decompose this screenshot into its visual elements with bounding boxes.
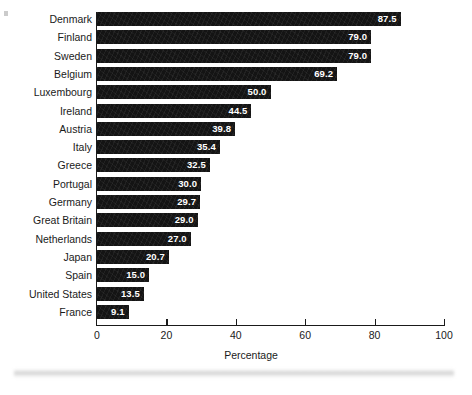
x-axis-tick-label: 80: [369, 329, 381, 341]
category-label: Greece: [0, 158, 92, 172]
bar-value-label: 27.0: [168, 232, 187, 246]
bar-value-label: 50.0: [248, 85, 267, 99]
x-axis-tick: [305, 319, 306, 325]
bar[interactable]: 35.4: [97, 140, 220, 154]
x-axis-tick-label: 60: [299, 329, 311, 341]
bar-row[interactable]: 79.0: [97, 30, 444, 44]
category-label: Portugal: [0, 177, 92, 191]
bar[interactable]: 44.5: [97, 104, 251, 118]
bar-value-label: 15.0: [126, 268, 145, 282]
bar-row[interactable]: 87.5: [97, 12, 444, 26]
category-label: Italy: [0, 140, 92, 154]
x-axis-tick-label: 40: [230, 329, 242, 341]
bar[interactable]: 27.0: [97, 232, 191, 246]
bar-row[interactable]: 39.8: [97, 122, 444, 136]
category-label: United States: [0, 287, 92, 301]
bar-value-label: 20.7: [146, 250, 165, 264]
bar-value-label: 79.0: [348, 30, 367, 44]
scan-artifact-shadow: [14, 369, 454, 378]
bar[interactable]: 20.7: [97, 250, 169, 264]
x-axis-ticks: [97, 325, 445, 326]
category-label: France: [0, 305, 92, 319]
bar-row[interactable]: 44.5: [97, 104, 444, 118]
bar-value-label: 29.0: [175, 213, 194, 227]
x-axis-tick-labels: 020406080100: [97, 329, 445, 345]
category-label: Luxembourg: [0, 85, 92, 99]
bar-row[interactable]: 32.5: [97, 158, 444, 172]
bar-row[interactable]: 15.0: [97, 268, 444, 282]
bar-row[interactable]: 27.0: [97, 232, 444, 246]
bar[interactable]: 15.0: [97, 268, 149, 282]
category-label: Ireland: [0, 104, 92, 118]
bar[interactable]: 79.0: [97, 49, 371, 63]
x-axis-tick: [444, 319, 445, 325]
bar[interactable]: 79.0: [97, 30, 371, 44]
bar-value-label: 69.2: [314, 67, 333, 81]
bar[interactable]: 13.5: [97, 287, 144, 301]
bar-value-label: 9.1: [111, 305, 125, 319]
bar-row[interactable]: 69.2: [97, 67, 444, 81]
bar-value-label: 87.5: [378, 12, 397, 26]
category-label: Japan: [0, 250, 92, 264]
bar[interactable]: 87.5: [97, 12, 401, 26]
category-label: Austria: [0, 122, 92, 136]
category-label: Sweden: [0, 49, 92, 63]
bar-row[interactable]: 79.0: [97, 49, 444, 63]
bar[interactable]: 29.7: [97, 195, 200, 209]
x-axis-title-text: Percentage: [224, 349, 278, 361]
bar[interactable]: 30.0: [97, 177, 201, 191]
category-label: Denmark: [0, 12, 92, 26]
bar-value-label: 30.0: [178, 177, 197, 191]
bar-value-label: 35.4: [197, 140, 216, 154]
bar-row[interactable]: 29.0: [97, 213, 444, 227]
bar-row[interactable]: 35.4: [97, 140, 444, 154]
bar-value-label: 79.0: [348, 49, 367, 63]
bar-value-label: 29.7: [177, 195, 196, 209]
bar-value-label: 32.5: [187, 158, 206, 172]
x-axis-tick-label: 0: [94, 329, 100, 341]
category-label: Germany: [0, 195, 92, 209]
x-axis-title: Percentage: [0, 349, 472, 361]
bar-value-label: 39.8: [212, 122, 231, 136]
bar[interactable]: 9.1: [97, 305, 129, 319]
bar-chart: DenmarkFinlandSwedenBelgiumLuxembourgIre…: [0, 0, 472, 395]
category-label: Spain: [0, 268, 92, 282]
bar-value-label: 44.5: [229, 104, 248, 118]
x-axis-tick: [166, 319, 167, 325]
x-axis-tick: [236, 319, 237, 325]
bar-value-label: 13.5: [121, 287, 140, 301]
bar[interactable]: 29.0: [97, 213, 198, 227]
bar-row[interactable]: 50.0: [97, 85, 444, 99]
bar-row[interactable]: 13.5: [97, 287, 444, 301]
x-axis-tick-label: 100: [435, 329, 453, 341]
x-axis-tick-label: 20: [161, 329, 173, 341]
category-label: Great Britain: [0, 213, 92, 227]
bar-row[interactable]: 9.1: [97, 305, 444, 319]
bar-row[interactable]: 29.7: [97, 195, 444, 209]
bar[interactable]: 39.8: [97, 122, 235, 136]
bar-row[interactable]: 30.0: [97, 177, 444, 191]
category-label: Netherlands: [0, 232, 92, 246]
bar[interactable]: 50.0: [97, 85, 271, 99]
category-axis-labels: DenmarkFinlandSwedenBelgiumLuxembourgIre…: [0, 12, 92, 325]
bar-row[interactable]: 20.7: [97, 250, 444, 264]
x-axis-tick: [375, 319, 376, 325]
plot-area: 87.579.079.069.250.044.539.835.432.530.0…: [97, 12, 444, 325]
category-label: Finland: [0, 30, 92, 44]
category-label: Belgium: [0, 67, 92, 81]
bar[interactable]: 69.2: [97, 67, 337, 81]
bar[interactable]: 32.5: [97, 158, 210, 172]
